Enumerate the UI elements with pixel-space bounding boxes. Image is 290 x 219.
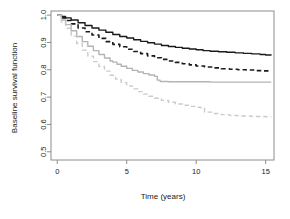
plot-background: [0, 0, 290, 219]
y-tick-label: 0.8: [39, 65, 48, 75]
x-tick-label: 15: [261, 167, 269, 176]
x-tick-label: 10: [192, 167, 200, 176]
y-tick-label: 0.9: [39, 37, 48, 47]
figure-container: 0.50.60.70.80.91.0 051015 Time (years) B…: [0, 0, 290, 219]
y-tick-label: 1.0: [39, 10, 48, 20]
x-tick-label: 0: [55, 167, 59, 176]
x-tick-label: 5: [125, 167, 129, 176]
survival-plot: 0.50.60.70.80.91.0 051015 Time (years) B…: [0, 0, 290, 219]
y-tick-label: 0.6: [39, 119, 48, 129]
y-axis-title: Baseline survival function: [10, 43, 19, 133]
y-tick-label: 0.7: [39, 92, 48, 102]
y-tick-label: 0.5: [39, 147, 48, 157]
x-axis-title: Time (years): [141, 192, 186, 201]
